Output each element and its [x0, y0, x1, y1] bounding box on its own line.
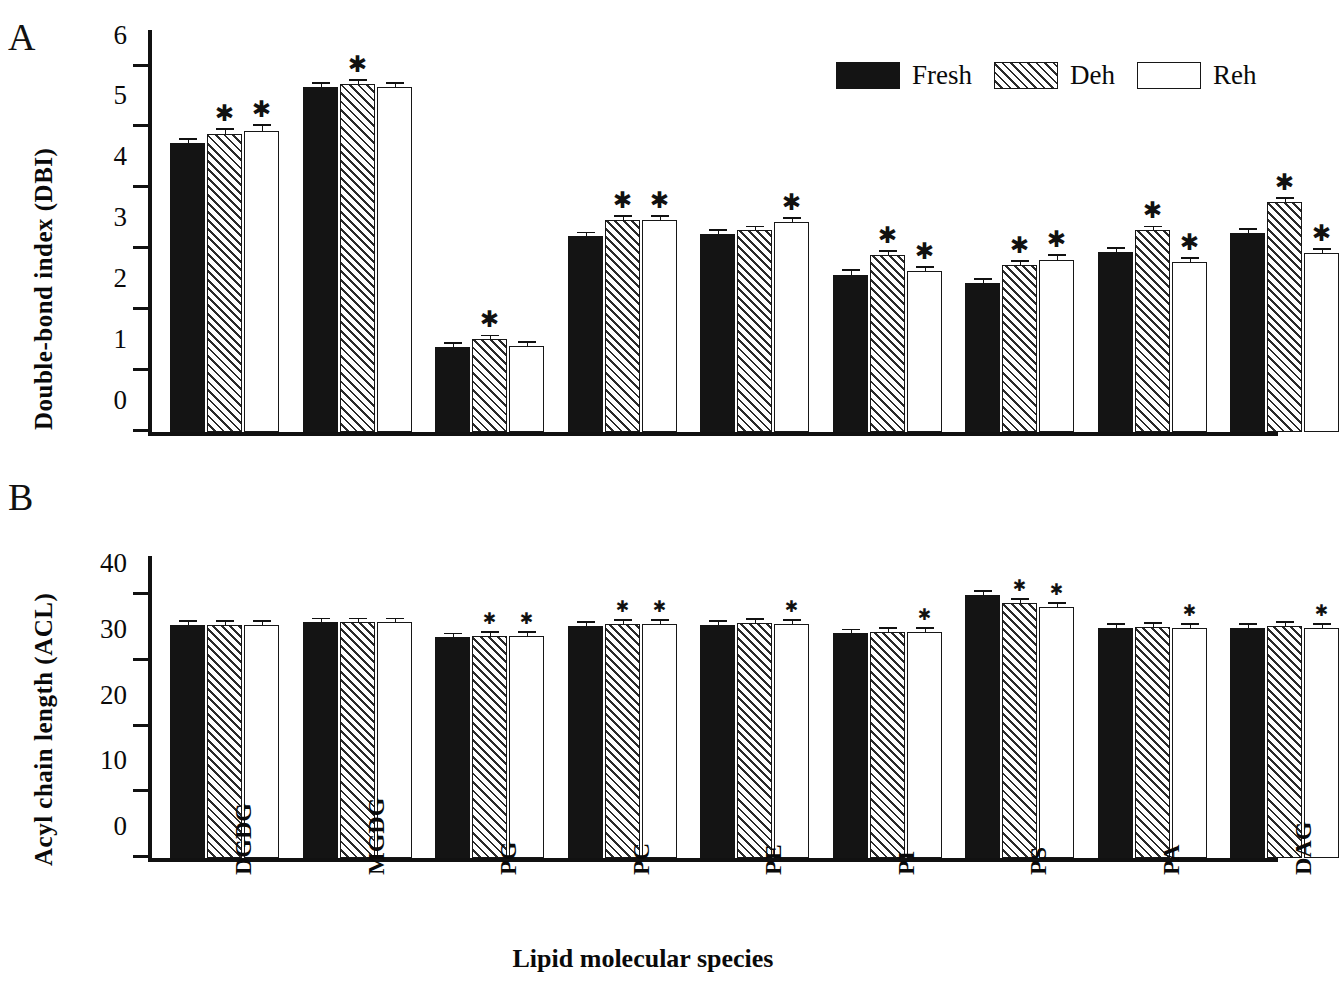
bar-pc-fresh	[568, 626, 603, 858]
bar-group-pe: ✱	[700, 30, 809, 432]
error-bar	[490, 336, 492, 339]
significance-asterisk: ✱	[616, 599, 629, 615]
error-bar-cap	[518, 341, 536, 343]
x-axis-category-pa: PA	[1158, 845, 1185, 875]
error-bar-cap	[879, 627, 897, 629]
error-bar-cap	[916, 627, 934, 629]
bar-pc-fresh	[568, 236, 603, 432]
error-bar-cap	[842, 269, 860, 271]
plotB-tick	[133, 724, 148, 727]
error-bar	[1153, 227, 1155, 230]
bar-dag-fresh	[1230, 233, 1265, 432]
significance-asterisk: ✱	[785, 599, 798, 615]
error-bar	[983, 592, 985, 595]
plotA-tick-label: 0	[114, 385, 128, 416]
bar-pg-deh	[472, 339, 507, 432]
error-bar-cap	[974, 278, 992, 280]
error-bar-cap	[783, 217, 801, 219]
significance-asterisk: ✱	[483, 611, 496, 627]
error-bar	[358, 619, 360, 622]
error-bar	[1190, 625, 1192, 628]
plotA-tick	[133, 124, 148, 127]
plotB-tick	[133, 789, 148, 792]
error-bar	[1285, 623, 1287, 626]
plotA-tick-label: 6	[114, 19, 128, 50]
bar-group-pe: ✱	[700, 556, 809, 858]
error-bar-cap	[253, 124, 271, 126]
bar-dgdg-fresh	[170, 143, 205, 432]
error-bar-cap	[879, 250, 897, 252]
bar-dgdg-fresh	[170, 625, 205, 858]
bar-group-mgdg: ✱	[303, 30, 412, 432]
x-axis-category-pc: PC	[628, 843, 655, 875]
panel-b-y-axis	[148, 556, 152, 862]
error-bar-cap	[1048, 254, 1066, 256]
error-bar	[660, 621, 662, 624]
error-bar	[925, 268, 927, 271]
error-bar	[792, 219, 794, 222]
bar-pg-fresh	[435, 637, 470, 858]
error-bar-cap	[651, 619, 669, 621]
error-bar	[1248, 625, 1250, 628]
error-bar-cap	[709, 620, 727, 622]
bar-ps-fresh	[965, 283, 1000, 432]
plotB-tick-label: 30	[100, 614, 127, 645]
bar-pe-reh	[774, 222, 809, 432]
bar-pa-reh	[1172, 628, 1207, 858]
error-bar-cap	[481, 631, 499, 633]
plotA-tick-label: 2	[114, 263, 128, 294]
error-bar	[851, 271, 853, 275]
x-axis-category-pe: PE	[760, 844, 787, 875]
x-axis-category-ps: PS	[1025, 847, 1052, 875]
bar-dag-fresh	[1230, 628, 1265, 858]
error-bar	[188, 622, 190, 625]
error-bar	[888, 252, 890, 255]
bar-dag-deh	[1267, 202, 1302, 432]
error-bar-cap	[179, 138, 197, 140]
plotA-tick	[133, 307, 148, 310]
bar-pc-reh	[642, 220, 677, 432]
error-bar-cap	[1239, 228, 1257, 230]
error-bar	[1285, 199, 1287, 203]
error-bar-cap	[1239, 623, 1257, 625]
bar-pe-deh	[737, 230, 772, 432]
error-bar	[586, 233, 588, 236]
error-bar	[792, 621, 794, 624]
panel-b-letter: B	[8, 478, 33, 516]
significance-asterisk: ✱	[650, 189, 669, 212]
bar-pi-deh	[870, 255, 905, 432]
bar-pc-reh	[642, 624, 677, 858]
significance-asterisk: ✱	[915, 240, 934, 263]
plotA-tick-label: 1	[114, 324, 128, 355]
error-bar	[321, 84, 323, 87]
error-bar-cap	[577, 232, 595, 234]
bar-ps-fresh	[965, 595, 1000, 858]
error-bar	[1057, 604, 1059, 607]
error-bar	[1116, 625, 1118, 628]
error-bar-cap	[444, 342, 462, 344]
error-bar	[1190, 259, 1192, 262]
bar-pi-reh	[907, 632, 942, 858]
bar-dgdg-deh	[207, 134, 242, 432]
x-axis-category-dgdg: DGDG	[230, 803, 257, 875]
error-bar-cap	[1313, 623, 1331, 625]
bar-pa-deh	[1135, 230, 1170, 432]
error-bar	[188, 140, 190, 143]
error-bar-cap	[253, 620, 271, 622]
error-bar	[262, 622, 264, 625]
plotB-tick	[133, 658, 148, 661]
error-bar	[888, 629, 890, 632]
plotA-tick	[133, 429, 148, 432]
bar-mgdg-fresh	[303, 87, 338, 432]
significance-asterisk: ✱	[480, 308, 499, 331]
panel-a-y-axis	[148, 30, 152, 436]
bar-pg-fresh	[435, 347, 470, 432]
bar-group-ps: ✱✱	[965, 30, 1074, 432]
error-bar	[453, 344, 455, 347]
error-bar	[1248, 230, 1250, 233]
significance-asterisk: ✱	[918, 607, 931, 623]
bar-group-mgdg	[303, 556, 412, 858]
error-bar-cap	[1048, 602, 1066, 604]
error-bar-cap	[1011, 260, 1029, 262]
